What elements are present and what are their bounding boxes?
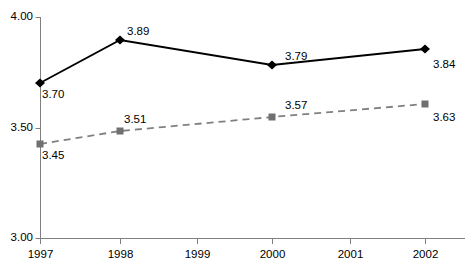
x-axis-tick-label-1997: 1997 [14,249,67,261]
data-label-series1-1997: 3.70 [42,89,64,101]
x-axis-tick-label-2000: 2000 [246,249,299,261]
series-2-marker [37,141,44,148]
x-axis-tick-label-1999: 1999 [171,249,224,261]
data-label-series1-2002: 3.84 [433,59,455,71]
series-1-marker [420,45,430,54]
series-2-marker [422,101,429,108]
y-axis-tick-label-300: 3.00 [0,232,33,244]
series-2-marker [117,128,124,135]
x-axis-tick-label-2001: 2001 [324,249,377,261]
line-chart: 4.00 3.50 3.00 1997 1998 1999 2000 2001 … [0,0,465,271]
series-1-marker [115,36,125,45]
data-label-series2-2000: 3.57 [285,100,307,112]
series-1-line [40,40,425,83]
data-label-series2-2002: 3.63 [433,112,455,124]
y-axis-tick-label-350: 3.50 [0,122,33,134]
series-2-line [40,104,425,144]
data-label-series1-2000: 3.79 [285,51,307,63]
series-1-marker [35,79,45,88]
x-axis-tick-label-2002: 2002 [399,249,452,261]
x-axis-tick-label-1998: 1998 [94,249,147,261]
y-axis-tick-label-400: 4.00 [0,11,33,23]
data-label-series2-1998: 3.51 [124,114,146,126]
series-2-marker [269,114,276,121]
data-label-series1-1998: 3.89 [127,26,149,38]
series-1-marker [267,61,277,70]
chart-plot-area [0,0,465,271]
data-label-series2-1997: 3.45 [42,150,64,162]
